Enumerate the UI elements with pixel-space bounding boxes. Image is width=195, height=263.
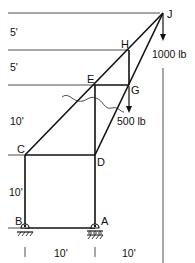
node-label-j: J	[167, 8, 173, 20]
node-label-h: H	[121, 38, 129, 50]
dim-label-aj: 10'	[122, 247, 136, 259]
truss-diagram: J H E G C D B A 1000 lb 500 lb 5' 5' 10'…	[0, 0, 195, 263]
dim-label-ba: 10'	[54, 247, 68, 259]
node-label-d: D	[97, 156, 105, 168]
node-label-c: C	[17, 143, 25, 155]
load-label-500: 500 lb	[117, 115, 146, 127]
dim-label-ec: 10'	[10, 115, 24, 127]
dim-label-cb: 10'	[9, 186, 23, 198]
node-label-b: B	[15, 215, 22, 227]
node-label-e: E	[87, 73, 94, 85]
node-label-g: G	[131, 84, 140, 96]
section-cut-line	[62, 95, 124, 112]
node-label-a: A	[101, 215, 109, 227]
load-label-1000: 1000 lb	[152, 48, 187, 60]
dim-label-he: 5'	[10, 61, 18, 73]
dim-label-jh: 5'	[10, 26, 18, 38]
